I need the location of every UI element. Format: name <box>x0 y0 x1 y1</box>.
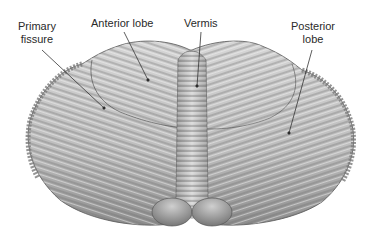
label-posterior-lobe: Posterior lobe <box>291 20 335 46</box>
label-line: fissure <box>18 33 56 46</box>
label-vermis: Vermis <box>184 17 218 30</box>
label-line: Anterior lobe <box>91 17 153 30</box>
cerebellum-diagram: Primary fissure Anterior lobe Vermis Pos… <box>0 0 381 239</box>
left-tonsil <box>152 198 192 226</box>
label-line: Primary <box>18 20 56 33</box>
label-line: Posterior <box>291 20 335 33</box>
label-line: lobe <box>291 33 335 46</box>
label-primary-fissure: Primary fissure <box>18 20 56 46</box>
right-tonsil <box>192 198 232 226</box>
label-anterior-lobe: Anterior lobe <box>91 17 153 30</box>
label-line: Vermis <box>184 17 218 30</box>
